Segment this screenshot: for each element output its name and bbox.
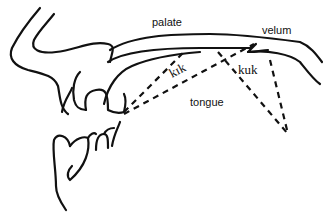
- velum-label: velum: [262, 24, 291, 36]
- tongue-label: tongue: [190, 96, 224, 108]
- nasal-inner-outline: [33, 14, 113, 62]
- tongue-surface: [104, 52, 200, 104]
- vocal-tract-diagram: palate velum tongue kɪk kuk: [0, 0, 328, 219]
- kuk-label: kuk: [238, 62, 258, 77]
- kik-line-lower: [124, 44, 254, 114]
- lower-incisors: [112, 122, 120, 146]
- nose-outline: [11, 8, 68, 114]
- lip-line: [62, 88, 72, 112]
- palate-label: palate: [152, 16, 182, 28]
- kik-label: kɪk: [166, 59, 188, 80]
- lower-lip-inner: [68, 137, 89, 180]
- upper-lip: [73, 72, 86, 110]
- lower-teeth: [96, 134, 108, 150]
- lower-teeth-row: [88, 128, 114, 138]
